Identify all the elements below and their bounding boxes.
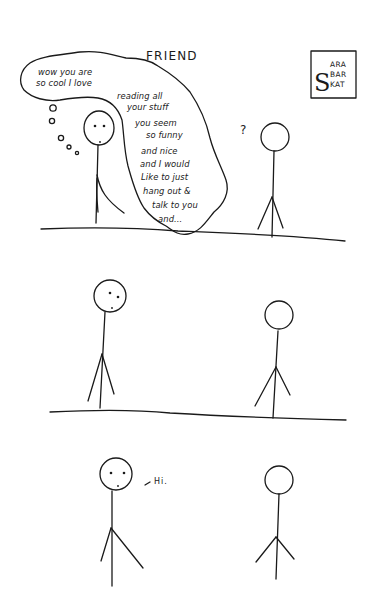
- comic-strip: FRIEND S ARA BAR KAT wow you are so cool…: [0, 0, 376, 613]
- artist-signature: S ARA BAR KAT: [311, 51, 356, 98]
- figure-arm: [258, 197, 272, 229]
- thought-trail-bubble: [67, 145, 71, 149]
- figure-head: [94, 280, 126, 312]
- thought-trail-bubble: [50, 105, 56, 111]
- figure-arm: [97, 175, 124, 213]
- speech-text: Hi.: [154, 477, 168, 486]
- figure-mouth: [99, 141, 101, 143]
- figure-head: [261, 123, 289, 151]
- panel-3: Hi.: [100, 458, 294, 586]
- figure-arm: [111, 528, 143, 568]
- ground-line: [41, 228, 345, 241]
- figure-eye: [94, 125, 97, 128]
- panel-2: [50, 280, 346, 420]
- thought-line: and nice: [141, 146, 178, 156]
- thought-line: you seem: [134, 118, 177, 128]
- panel-1: FRIEND S ARA BAR KAT wow you are so cool…: [21, 49, 356, 241]
- ground-line: [50, 410, 346, 420]
- figure-arm: [256, 537, 276, 562]
- thought-line: talk to you: [152, 200, 198, 210]
- figure-head: [100, 458, 132, 490]
- thought-line: Like to just: [141, 172, 189, 182]
- stick-figure-right: [256, 466, 294, 579]
- signature-line-1: ARA: [330, 60, 346, 69]
- figure-arm: [255, 367, 276, 406]
- figure-eye: [110, 472, 113, 475]
- figure-arm: [276, 537, 294, 559]
- thought-line: so funny: [146, 130, 184, 140]
- thought-line: and I would: [140, 159, 190, 169]
- signature-line-3: KAT: [330, 80, 345, 89]
- figure-body: [273, 331, 278, 418]
- thought-line: your stuff: [126, 102, 169, 112]
- stick-figure-right: [258, 123, 289, 237]
- comic-title: FRIEND: [146, 49, 198, 63]
- figure-body: [276, 494, 279, 579]
- thought-line: and...: [158, 214, 182, 224]
- figure-arm: [101, 528, 111, 561]
- signature-line-2: BAR: [330, 70, 346, 79]
- stick-figure-left: [88, 280, 126, 408]
- figure-arm: [272, 197, 283, 228]
- thought-trail-bubble: [49, 118, 54, 123]
- figure-mouth: [117, 485, 119, 487]
- stick-figure-left: [100, 458, 143, 586]
- figure-arm: [88, 354, 102, 401]
- question-mark: ?: [240, 123, 246, 137]
- speech-tick: [145, 482, 150, 485]
- thought-line: so cool I love: [36, 78, 92, 88]
- thought-trail-bubble: [58, 135, 63, 140]
- figure-head: [265, 466, 293, 494]
- stick-figure-left: [84, 111, 124, 223]
- stick-figure-right: [255, 301, 293, 418]
- figure-body: [272, 151, 274, 237]
- figure-arm: [276, 367, 290, 395]
- figure-head: [265, 301, 293, 329]
- thought-text: wow you are so cool I love reading all y…: [36, 67, 198, 224]
- figure-eye: [117, 296, 120, 299]
- figure-mouth: [111, 307, 113, 309]
- thought-trail-bubble: [75, 151, 78, 154]
- figure-eye: [103, 125, 106, 128]
- thought-line: hang out &: [143, 186, 191, 196]
- signature-initial: S: [314, 69, 330, 97]
- figure-head: [84, 111, 114, 145]
- figure-arm: [102, 354, 114, 394]
- thought-line: reading all: [117, 91, 163, 101]
- thought-line: wow you are: [38, 67, 92, 77]
- figure-eye: [123, 472, 126, 475]
- figure-eye: [109, 292, 112, 295]
